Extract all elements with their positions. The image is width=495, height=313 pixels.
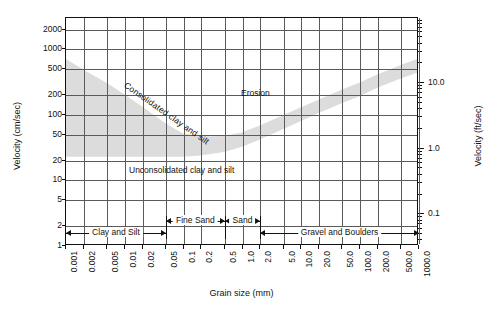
category-divider xyxy=(260,216,261,239)
x-gridline xyxy=(84,18,85,244)
y-axis-left-tick-label: 50 xyxy=(28,129,62,139)
x-gridline xyxy=(360,18,361,244)
x-gridline xyxy=(260,18,261,244)
x-gridline xyxy=(243,18,244,244)
x-gridline xyxy=(301,18,302,244)
x-axis-tick xyxy=(283,245,284,249)
x-axis-tick xyxy=(124,245,125,249)
category-bracket: Sand xyxy=(225,216,260,227)
y-axis-left-title: Velocity (cm/sec) xyxy=(12,71,22,201)
y-gridline xyxy=(66,135,417,136)
y-gridline xyxy=(66,30,417,31)
x-axis-tick-label: 2.0 xyxy=(263,251,273,263)
x-axis-tick xyxy=(300,245,301,249)
x-axis-tick xyxy=(341,245,342,249)
y-axis-left-tick-label: 2 xyxy=(28,220,62,230)
erosion-label: Erosion xyxy=(241,88,270,98)
y-gridline xyxy=(66,200,417,201)
x-axis-tick-label: 1.0 xyxy=(246,251,256,263)
x-gridline xyxy=(342,18,343,244)
category-label: Fine Sand xyxy=(173,215,218,225)
x-axis-tick-label: 500.0 xyxy=(404,251,414,272)
x-gridline xyxy=(419,18,420,244)
y-axis-left-tick-label: 1000 xyxy=(28,43,62,53)
bracket-arrow-right xyxy=(414,230,419,236)
x-axis-tick xyxy=(200,245,201,249)
plot-area: Erosion Unconsolidated clay and silt Con… xyxy=(65,17,418,245)
category-label: Sand xyxy=(230,215,256,225)
x-axis-tick-label: 100.0 xyxy=(363,251,373,272)
y-axis-left-tick-label: 1 xyxy=(28,240,62,250)
x-axis-tick xyxy=(83,245,84,249)
y-axis-right: 0.11.010.0 xyxy=(418,17,478,245)
x-axis-tick xyxy=(418,245,419,249)
x-axis-tick xyxy=(400,245,401,249)
x-axis-tick xyxy=(242,245,243,249)
category-bracket: Fine Sand xyxy=(166,216,225,227)
x-axis-tick-label: 200.0 xyxy=(381,251,391,272)
category-label: Gravel and Boulders xyxy=(298,227,382,237)
x-axis-tick-label: 0.002 xyxy=(87,251,97,272)
y-axis-right-tick-label: 0.1 xyxy=(428,208,440,218)
x-axis-tick-label: 0.05 xyxy=(169,251,179,268)
x-axis-tick xyxy=(259,245,260,249)
x-axis-tick xyxy=(165,245,166,249)
x-axis-tick-label: 0.1 xyxy=(187,251,197,263)
category-bracket: Gravel and Boulders xyxy=(260,228,419,239)
y-gridline xyxy=(66,180,417,181)
x-axis-tick-label: 0.02 xyxy=(146,251,156,268)
y-axis-left-tick-label: 200 xyxy=(28,89,62,99)
category-divider xyxy=(225,216,226,239)
x-gridline xyxy=(107,18,108,244)
category-label: Clay and Silt xyxy=(89,227,143,237)
x-gridline xyxy=(319,18,320,244)
bracket-arrow-left xyxy=(66,230,71,236)
x-axis-tick xyxy=(377,245,378,249)
x-axis-tick-label: 20.0 xyxy=(322,251,332,268)
x-gridline xyxy=(284,18,285,244)
x-gridline xyxy=(143,18,144,244)
hjulstrom-diagram: 12510205010020050010002000 Velocity (cm/… xyxy=(0,0,495,313)
y-gridline xyxy=(66,49,417,50)
x-axis-tick xyxy=(65,245,66,249)
x-axis-tick-label: 10.0 xyxy=(304,251,314,268)
y-axis-left-tick-label: 20 xyxy=(28,155,62,165)
x-axis-tick xyxy=(142,245,143,249)
y-axis-left: 12510205010020050010002000 xyxy=(23,17,62,245)
x-gridline xyxy=(401,18,402,244)
y-axis-right-title: Velocity (ft/sec) xyxy=(473,71,483,201)
y-axis-right-tick-label: 10.0 xyxy=(428,77,445,87)
x-axis-tick-label: 5.0 xyxy=(287,251,297,263)
x-axis-tick xyxy=(106,245,107,249)
x-axis-tick xyxy=(183,245,184,249)
x-axis-title: Grain size (mm) xyxy=(65,288,418,298)
velocity-band xyxy=(66,18,417,244)
x-axis-tick xyxy=(318,245,319,249)
critical-velocity-band-fill xyxy=(66,59,417,157)
y-axis-left-tick-label: 5 xyxy=(28,194,62,204)
x-gridline xyxy=(125,18,126,244)
category-divider xyxy=(166,216,167,239)
y-gridline xyxy=(66,69,417,70)
y-axis-left-tick-label: 500 xyxy=(28,63,62,73)
unconsolidated-label: Unconsolidated clay and silt xyxy=(129,165,234,175)
y-axis-left-tick-label: 2000 xyxy=(28,24,62,34)
x-gridline xyxy=(378,18,379,244)
x-axis-tick-label: 1000.0 xyxy=(422,251,432,277)
x-axis-tick-label: 0.2 xyxy=(204,251,214,263)
category-bracket: Clay and Silt xyxy=(66,228,166,239)
y-axis-right-tick-label: 1.0 xyxy=(428,143,440,153)
x-axis-tick-label: 0.5 xyxy=(228,251,238,263)
y-gridline xyxy=(66,115,417,116)
x-axis-tick-label: 0.005 xyxy=(110,251,120,272)
y-axis-left-tick-label: 10 xyxy=(28,174,62,184)
y-gridline xyxy=(66,161,417,162)
x-gridline xyxy=(166,18,167,244)
x-axis-tick xyxy=(224,245,225,249)
x-axis-tick xyxy=(359,245,360,249)
y-axis-left-tick-label: 100 xyxy=(28,109,62,119)
x-axis-tick-label: 0.001 xyxy=(69,251,79,272)
x-axis-tick-label: 50.0 xyxy=(345,251,355,268)
x-gridline xyxy=(225,18,226,244)
x-axis-tick-label: 0.01 xyxy=(128,251,138,268)
